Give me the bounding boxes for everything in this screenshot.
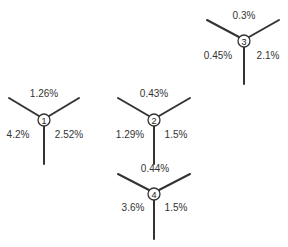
- junction-4-top-value: 0.44%: [141, 163, 169, 175]
- junction-4-number: 4: [151, 190, 156, 200]
- junction-4-right-value: 1.5%: [165, 202, 188, 214]
- junction-1-right-value: 2.52%: [55, 129, 83, 141]
- junction-2-right-value: 1.5%: [165, 129, 188, 141]
- junction-1-top-value: 1.26%: [30, 88, 58, 100]
- junction-3-top-value: 0.3%: [233, 10, 256, 22]
- junction-1-left-value: 4.2%: [7, 129, 30, 141]
- junction-2-top-value: 0.43%: [140, 88, 168, 100]
- junction-3-right-value: 2.1%: [257, 50, 280, 62]
- junction-2-left-value: 1.29%: [116, 129, 144, 141]
- junction-4-left-value: 3.6%: [122, 202, 145, 214]
- junction-2-number: 2: [151, 116, 156, 126]
- junction-3-number: 3: [241, 37, 246, 47]
- junction-1-number: 1: [41, 116, 46, 126]
- junction-3-left-value: 0.45%: [204, 50, 232, 62]
